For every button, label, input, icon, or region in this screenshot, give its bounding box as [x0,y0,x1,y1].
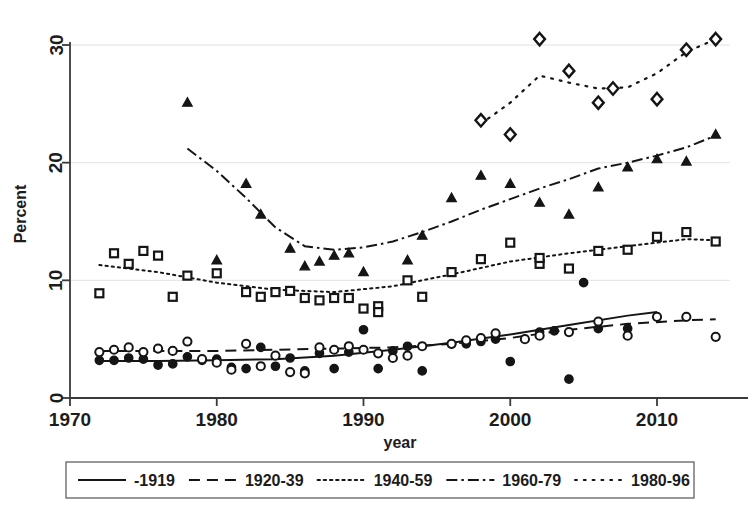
marker-open-square [286,287,294,295]
marker-filled-triangle [315,257,325,266]
marker-filled-circle [125,354,133,362]
x-tick-label: 1980 [196,409,238,430]
marker-open-circle [330,346,338,354]
marker-open-square [360,305,368,313]
legend-label: 1960-79 [502,472,561,489]
marker-open-square [271,288,279,296]
marker-filled-circle [359,326,367,334]
marker-open-circle [359,346,367,354]
marker-open-circle [491,329,499,337]
marker-open-circle [462,336,470,344]
marker-open-square [448,268,456,276]
marker-filled-triangle [447,193,457,202]
marker-open-circle [95,348,103,356]
x-tick-label: 2000 [489,409,531,430]
series-1980-96 [476,33,722,141]
marker-filled-triangle [505,179,515,188]
marker-open-square [682,228,690,236]
marker-open-circle [389,354,397,362]
marker-open-square [594,247,602,255]
x-tick-label: 1990 [342,409,384,430]
marker-open-diamond [505,128,516,140]
marker-open-circle [447,340,455,348]
y-tick-label: 20 [46,152,67,173]
marker-open-square [330,294,338,302]
marker-open-square [315,296,323,304]
marker-open-circle [301,369,309,377]
series-1940-59 [95,228,719,316]
marker-filled-circle [110,356,118,364]
marker-open-circle [139,348,147,356]
marker-filled-circle [330,364,338,372]
marker-open-diamond [564,65,575,77]
marker-open-diamond [608,82,619,94]
y-tick-label: 10 [46,270,67,291]
marker-open-square [624,246,632,254]
marker-filled-triangle [359,267,369,276]
y-tick-label: 30 [46,34,67,55]
marker-open-circle [594,317,602,325]
marker-open-square [506,239,514,247]
marker-filled-triangle [300,261,310,270]
marker-filled-circle [374,364,382,372]
marker-open-square [213,269,221,277]
marker-open-circle [477,334,485,342]
marker-open-circle [169,347,177,355]
marker-open-square [404,276,412,284]
marker-filled-circle [271,362,279,370]
marker-open-square [154,252,162,260]
marker-filled-triangle [212,255,222,264]
marker-open-circle [154,344,162,352]
y-tick-label: 0 [46,393,67,404]
marker-open-square [345,294,353,302]
marker-open-square [301,294,309,302]
marker-filled-triangle [285,244,295,253]
legend-label: 1920-39 [245,472,304,489]
marker-open-circle [271,352,279,360]
marker-filled-triangle [564,209,574,218]
marker-filled-circle [169,360,177,368]
marker-open-square [139,247,147,255]
marker-open-square [536,254,544,262]
marker-filled-triangle [256,209,266,218]
marker-open-square [242,288,250,296]
marker-open-square [169,293,177,301]
x-tick-label: 2010 [636,409,678,430]
marker-open-circle [242,340,250,348]
marker-open-square [110,249,118,257]
marker-open-square [565,265,573,273]
x-tick-label: 1970 [49,409,91,430]
gridlines [70,45,730,398]
marker-open-circle [521,335,529,343]
marker-open-square [418,293,426,301]
legend: -19191920-391940-591960-791980-96 [66,462,694,498]
marker-filled-triangle [682,156,692,165]
marker-open-diamond [593,96,604,108]
marker-open-diamond [652,93,663,105]
marker-filled-circle [154,361,162,369]
marker-open-circle [418,342,426,350]
marker-open-square [653,233,661,241]
marker-open-square [374,308,382,316]
marker-filled-circle [95,356,103,364]
marker-filled-circle [286,354,294,362]
marker-open-square [95,289,103,297]
marker-open-diamond [710,33,721,45]
marker-open-circle [682,313,690,321]
y-axis-title: Percent [12,184,29,243]
marker-open-circle [565,328,573,336]
marker-open-square [125,260,133,268]
marker-open-circle [286,368,294,376]
marker-open-square [712,238,720,246]
marker-filled-triangle [329,251,339,260]
marker-filled-triangle [711,129,721,138]
trend-line [481,39,716,124]
marker-open-circle [536,332,544,340]
marker-filled-circle [506,357,514,365]
marker-filled-triangle [535,198,545,207]
marker-open-square [257,293,265,301]
marker-open-circle [198,355,206,363]
marker-open-circle [183,337,191,345]
marker-filled-circle [418,367,426,375]
marker-open-circle [624,332,632,340]
